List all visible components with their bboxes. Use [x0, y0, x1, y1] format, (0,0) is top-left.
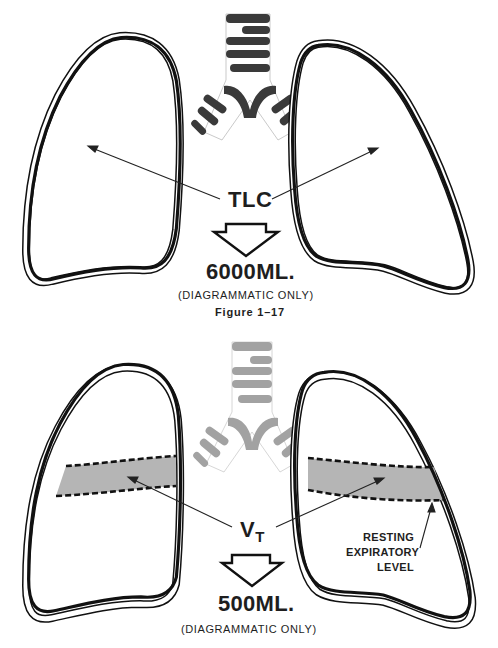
right-lung-top: [292, 43, 471, 291]
down-arrow-icon: [222, 555, 282, 586]
annotation-line-3: LEVEL: [346, 560, 414, 575]
right-lung-bottom: [294, 372, 472, 625]
diagrammatic-note-bottom: (DIAGRAMMATIC ONLY): [181, 623, 317, 635]
vt-label: VT: [240, 517, 265, 545]
vt-label-main: V: [240, 517, 255, 542]
tlc-volume: 6000ML.: [206, 259, 295, 285]
vt-volume: 500ML.: [218, 591, 294, 617]
annotation-line-2: EXPIRATORY: [346, 545, 414, 560]
tlc-label: TLC: [228, 187, 272, 213]
diagrammatic-note-top: (DIAGRAMMATIC ONLY): [178, 289, 314, 301]
down-arrow-icon: [214, 224, 278, 256]
annotation-line-1: RESTING: [346, 530, 414, 545]
figure-caption: Figure 1–17: [215, 306, 285, 318]
left-lung-top: [26, 36, 180, 282]
resting-expiratory-level-label: RESTING EXPIRATORY LEVEL: [346, 530, 414, 575]
vt-label-sub: T: [255, 528, 265, 545]
lung-diagram: [0, 0, 498, 648]
